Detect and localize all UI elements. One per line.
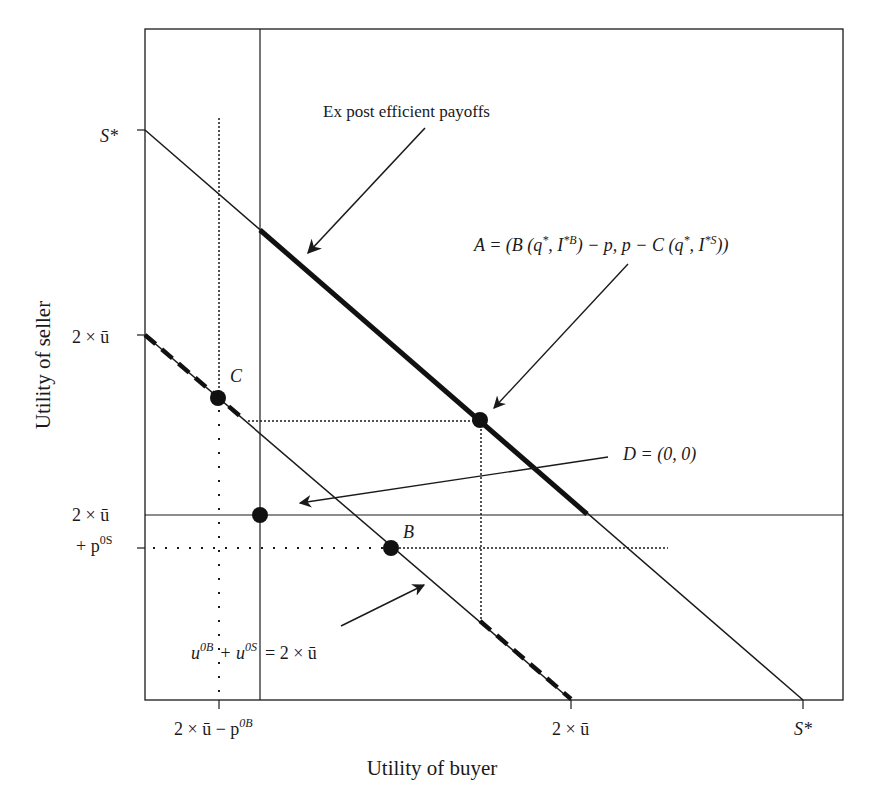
y-tick-s-star: S* <box>100 126 118 146</box>
point-d-arrow <box>300 457 608 503</box>
ex-post-arrow <box>308 128 425 253</box>
x-tick-two-u-bar-minus-p: 2 × ū − p0B <box>174 716 253 739</box>
y-tick-two-u-bar-line1: 2 × ū <box>72 505 109 525</box>
point-a-arrow <box>494 264 628 408</box>
y-axis-label: Utility of seller <box>31 301 55 429</box>
ex-post-efficient-segment <box>260 230 587 514</box>
axis-ticks <box>137 130 803 709</box>
y-tick-plus-p: + p0S <box>76 533 112 556</box>
constraint-arrow <box>341 585 424 626</box>
point-a-label: A = (B (q*, I*B) − p, p − C (q*, I*S)) <box>473 233 728 256</box>
ex-post-label: Ex post efficient payoffs <box>323 102 490 121</box>
x-tick-two-u-bar: 2 × ū <box>552 719 589 739</box>
outside-option-dashed-segment-lower <box>480 621 571 699</box>
point-d-label: D = (0, 0) <box>622 444 696 465</box>
point-b <box>383 540 399 556</box>
y-tick-two-u-bar: 2 × ū <box>72 327 109 347</box>
plot-frame <box>145 29 843 700</box>
point-b-label: B <box>403 522 414 542</box>
point-a <box>472 412 488 428</box>
constraint-label: u0B+ u0S= 2 × ū <box>191 640 317 663</box>
point-c <box>210 390 226 406</box>
point-d <box>252 507 268 523</box>
x-axis-label: Utility of buyer <box>367 756 498 780</box>
x-tick-s-star: S* <box>794 719 812 739</box>
point-c-label: C <box>230 366 243 386</box>
diagram-canvas: S* 2 × ū 2 × ū + p0S 2 × ū − p0B 2 × ū S… <box>0 0 873 809</box>
